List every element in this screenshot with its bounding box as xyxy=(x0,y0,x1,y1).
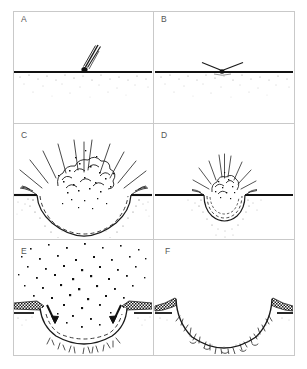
panel-label-d: D xyxy=(161,131,168,140)
panel-label-a: A xyxy=(21,15,27,24)
panel-label-b: B xyxy=(161,15,167,24)
panel-label-f: F xyxy=(165,247,171,256)
impact-crater-figure: A B C D E F xyxy=(0,0,307,369)
panel-label-c: C xyxy=(21,131,28,140)
panel-label-e: E xyxy=(21,247,27,256)
figure-canvas xyxy=(0,0,307,369)
